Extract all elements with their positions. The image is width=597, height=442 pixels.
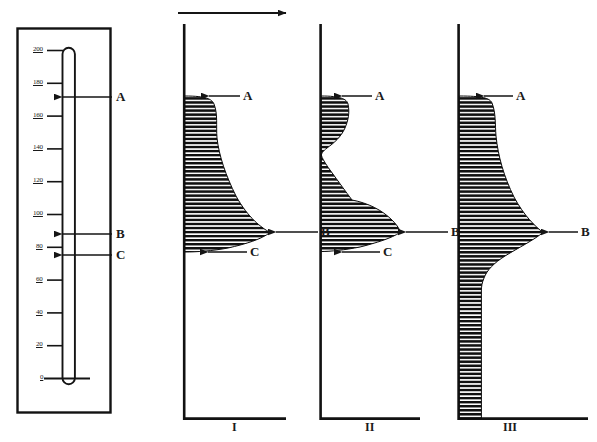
panel-III-caption: III	[503, 421, 517, 433]
scale-tick-40: 40	[36, 308, 43, 316]
scale-tick-20: 20	[36, 340, 43, 348]
panel-II-marker-label-c: C	[383, 245, 392, 258]
capillary-tube	[63, 48, 75, 384]
panel-I-profile	[185, 96, 270, 252]
scale-tick-0: 0	[40, 373, 43, 381]
panel-I-group	[184, 24, 318, 419]
scale-marker-label-a: A	[116, 90, 125, 103]
scale-tick-100: 100	[33, 209, 43, 217]
panel-III-marker-label-a: A	[516, 89, 525, 102]
scale-tick-120: 120	[33, 176, 43, 184]
scale-tick-180: 180	[33, 78, 43, 86]
panel-I-caption: I	[232, 421, 237, 433]
scale-tick-140: 140	[33, 143, 43, 151]
diagram-canvas	[0, 0, 597, 442]
panel-I-marker-label-c: C	[250, 245, 259, 258]
panel-II-profile	[321, 96, 400, 252]
panel-II-marker-label-b: B	[451, 225, 460, 238]
panel-III-profile	[459, 96, 543, 419]
scale-marker-label-b: B	[116, 227, 125, 240]
scale-tick-200: 200	[33, 45, 43, 53]
panel-III-group	[459, 24, 588, 419]
scale-panel-group	[18, 29, 113, 413]
panel-II-marker-label-a: A	[375, 89, 384, 102]
scale-tick-80: 80	[36, 242, 43, 250]
panel-II-group	[321, 24, 448, 419]
scale-tick-160: 160	[33, 111, 43, 119]
panel-II-caption: II	[365, 421, 374, 433]
figure-root: 200 180 160 140 120 100 80 60 40 20 0 A …	[0, 0, 597, 442]
panel-I-marker-label-a: A	[243, 89, 252, 102]
panel-III-marker-label-b: B	[581, 225, 590, 238]
scale-tick-60: 60	[36, 275, 43, 283]
scale-marker-label-c: C	[116, 248, 125, 261]
panel-I-marker-label-b: B	[321, 225, 330, 238]
